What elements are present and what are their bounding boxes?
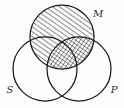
label-p: P <box>110 84 118 95</box>
label-s: S <box>7 84 14 95</box>
venn-diagram-canvas: M S P <box>0 0 124 108</box>
label-m: M <box>92 8 104 19</box>
venn-diagram-figure: M S P <box>0 0 124 108</box>
